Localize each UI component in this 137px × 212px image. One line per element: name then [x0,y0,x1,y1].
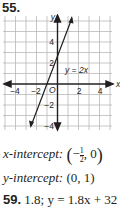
problem-59-line: 59. 1.8; y = 1.8x + 32 [3,192,117,208]
axes [4,15,113,130]
problem-59-number: 59. [3,192,21,207]
equation-label: y = 2x [64,65,89,75]
x-axis-label: x [115,79,120,89]
problem-number: 55. [2,0,20,15]
y-axis-label: y [50,14,56,22]
y-tick: −4 [44,121,54,131]
y-tick: 2 [49,58,54,68]
x-tick: −2 [31,86,41,96]
y-intercept-label: y-intercept: [3,170,63,185]
y-intercept-line: y-intercept: (0, 1) [3,170,95,186]
origin-label: O [49,85,56,95]
y-tick: −2 [44,100,54,110]
x-tick: −4 [10,86,20,96]
x-intercept-line: x-intercept: (−12, 0) [3,145,103,166]
x-tick: 4 [98,86,103,96]
x-tick: 2 [77,86,82,96]
y-tick: 4 [49,37,54,47]
y-intercept-value: (0, 1) [66,170,94,185]
problem-59-text: 1.8; y = 1.8x + 32 [24,192,117,207]
x-intercept-sign: − [72,146,79,161]
x-intercept-label: x-intercept: [3,146,63,161]
coordinate-graph: y x −4 −2 2 4 4 2 −2 −4 O y = 2x [0,14,120,132]
